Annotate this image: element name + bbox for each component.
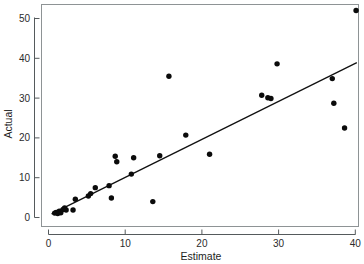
- x-tick-labels: 0 10 20 30 40: [46, 238, 362, 249]
- y-axis: [35, 18, 40, 218]
- data-point: [63, 207, 68, 212]
- data-point: [274, 61, 279, 66]
- regression-line-group: [52, 63, 357, 214]
- x-axis: [49, 230, 356, 235]
- data-point: [93, 185, 98, 190]
- x-tick-label: 10: [120, 238, 132, 249]
- data-point: [109, 195, 114, 200]
- y-tick-label: 40: [19, 53, 31, 64]
- y-axis-title: Actual: [2, 109, 14, 138]
- data-point: [166, 74, 171, 79]
- x-tick-label: 20: [196, 238, 208, 249]
- data-point: [131, 155, 136, 160]
- data-point: [183, 132, 188, 137]
- data-point: [70, 207, 75, 212]
- plot-canvas: 0 10 20 30 40 50 0 10 20 30 40 Estimate …: [0, 0, 364, 264]
- y-tick-label: 50: [19, 13, 31, 24]
- y-tick-label: 0: [24, 212, 30, 223]
- x-axis-title: Estimate: [181, 250, 222, 262]
- y-tick-label: 10: [19, 172, 31, 183]
- data-point: [342, 125, 347, 130]
- data-point: [330, 76, 335, 81]
- data-point: [157, 153, 162, 158]
- data-point: [207, 152, 212, 157]
- scatter-plot-figure: 0 10 20 30 40 50 0 10 20 30 40 Estimate …: [0, 0, 364, 264]
- y-tick-labels: 0 10 20 30 40 50: [19, 13, 31, 223]
- data-point: [73, 196, 78, 201]
- x-tick-label: 40: [350, 238, 362, 249]
- data-point: [353, 8, 358, 13]
- data-point-group: [52, 8, 359, 216]
- x-tick-label: 30: [273, 238, 285, 249]
- data-point: [88, 191, 93, 196]
- data-point: [113, 154, 118, 159]
- x-tick-label: 0: [46, 238, 52, 249]
- data-point: [150, 199, 155, 204]
- y-tick-label: 30: [19, 93, 31, 104]
- data-point: [114, 159, 119, 164]
- data-point: [129, 171, 134, 176]
- data-point: [268, 96, 273, 101]
- data-point: [259, 93, 264, 98]
- y-tick-label: 20: [19, 132, 31, 143]
- data-point: [331, 101, 336, 106]
- data-point: [106, 183, 111, 188]
- regression-line: [52, 63, 357, 214]
